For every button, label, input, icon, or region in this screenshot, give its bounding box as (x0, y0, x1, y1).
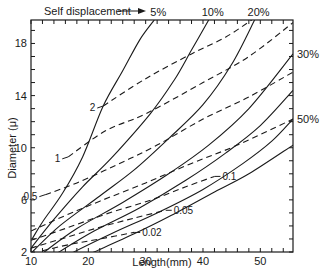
x-axis-label: Length(mm) (132, 256, 191, 268)
x-tick-label: 20 (82, 255, 94, 267)
series-line-20- (31, 20, 255, 253)
series-line-0-02 (43, 232, 135, 250)
self-displacement-annotation: Self displacement (44, 5, 131, 17)
label-leader (62, 157, 68, 159)
series-label: 10% (202, 6, 224, 18)
series-line-50- (71, 119, 293, 253)
series-layer (31, 20, 293, 253)
series-line-2 (103, 20, 252, 106)
x-tick-label: 40 (197, 255, 209, 267)
y-tick-label: 18 (15, 37, 27, 49)
y-axis-label: Diameter (μ) (6, 117, 18, 178)
series-label: 30% (297, 48, 319, 60)
y-tick-label: 14 (15, 90, 27, 102)
series-line-5- (32, 20, 154, 239)
series-label: 5% (150, 6, 166, 18)
series-label: 50% (297, 113, 319, 125)
series-label: 20% (248, 6, 270, 18)
y-tick-label: 2 (21, 246, 27, 258)
series-label: 0.5 (23, 191, 37, 202)
series-label: 0.02 (142, 227, 162, 238)
series-line-60- (91, 145, 293, 253)
series-label: 1 (55, 153, 61, 164)
series-line-0-5 (45, 72, 293, 195)
series-line-0-2 (31, 119, 293, 231)
series-line-1 (68, 23, 293, 157)
label-leader (39, 195, 45, 197)
series-label: 2 (90, 102, 96, 113)
chart: 102030405026101418 5%10%20%30%50%210.50.… (0, 0, 328, 270)
x-tick-label: 50 (254, 255, 266, 267)
series-label: 0.05 (174, 205, 194, 216)
series-label: 0.1 (222, 171, 236, 182)
